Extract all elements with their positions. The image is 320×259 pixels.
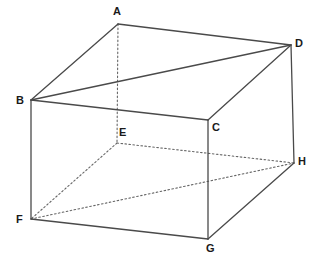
- edge-AB: [31, 24, 118, 100]
- edge-GH: [208, 163, 294, 239]
- diagonal-BD: [31, 45, 291, 100]
- edge-FG: [31, 219, 208, 239]
- vertex-label-d: D: [295, 38, 303, 49]
- vertex-label-c: C: [212, 122, 220, 133]
- edge-EF: [31, 143, 117, 219]
- vertex-label-b: B: [16, 95, 24, 106]
- vertex-label-h: H: [298, 156, 306, 167]
- vertex-label-e: E: [119, 127, 126, 138]
- edge-BC: [31, 100, 208, 120]
- vertex-label-g: G: [206, 243, 215, 254]
- vertex-label-a: A: [113, 6, 121, 17]
- solid-edge-group: [31, 24, 294, 239]
- edge-CD: [208, 45, 291, 120]
- edge-DH: [291, 45, 294, 163]
- geometry-canvas: [0, 0, 320, 259]
- diagonal-FH: [31, 163, 294, 219]
- edge-EH: [117, 143, 294, 163]
- edge-AD: [118, 24, 291, 45]
- vertex-label-f: F: [16, 214, 23, 225]
- edge-AE: [117, 24, 118, 143]
- cuboid-figure: ABCDEFGH: [0, 0, 320, 259]
